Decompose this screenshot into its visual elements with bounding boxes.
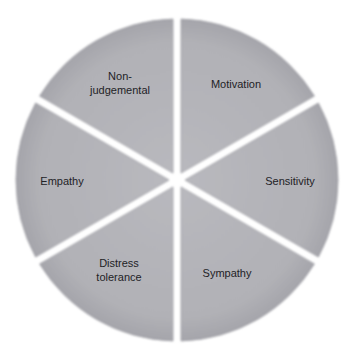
segment-label: Sympathy [203, 267, 252, 279]
segment-motivation: Motivation [211, 77, 261, 91]
segment-label: Motivation [211, 78, 261, 90]
segment-sensitivity: Sensitivity [265, 174, 315, 188]
segment-empathy: Empathy [40, 174, 83, 188]
segment-distress-tolerance: Distress tolerance [96, 256, 141, 284]
segment-label: Sensitivity [265, 175, 315, 187]
segment-label-line-1: Non- [108, 70, 132, 82]
segment-non-judgemental: Non- judgemental [90, 69, 150, 97]
segment-label-line-2: tolerance [96, 271, 141, 283]
segment-label-line-1: Distress [99, 257, 139, 269]
segment-label-line-2: judgemental [90, 84, 150, 96]
segment-label: Empathy [40, 175, 83, 187]
segment-sympathy: Sympathy [203, 266, 252, 280]
